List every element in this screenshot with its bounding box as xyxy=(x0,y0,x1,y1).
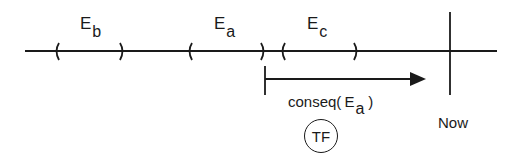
event-label-main: E xyxy=(307,14,318,33)
event-label-ec: Ec xyxy=(307,15,327,32)
event-label-main: E xyxy=(214,14,225,33)
event-label-sub: b xyxy=(92,23,101,40)
conseq-label: conseq(Ea) xyxy=(288,94,373,110)
conseq-event-main: E xyxy=(344,93,354,110)
event-label-sub: c xyxy=(319,23,327,40)
event-label-sub: a xyxy=(226,23,235,40)
timeline-diagram xyxy=(0,0,520,165)
tf-badge: TF xyxy=(304,119,338,153)
conseq-event-sub: a xyxy=(355,100,364,117)
conseq-prefix: conseq( xyxy=(288,93,341,110)
tf-badge-label: TF xyxy=(312,128,330,145)
arrowhead-icon xyxy=(410,72,426,86)
now-label: Now xyxy=(438,115,468,130)
event-label-main: E xyxy=(80,14,91,33)
event-label-ea: Ea xyxy=(214,15,235,32)
conseq-suffix: ) xyxy=(368,93,373,110)
event-label-eb: Eb xyxy=(80,15,101,32)
